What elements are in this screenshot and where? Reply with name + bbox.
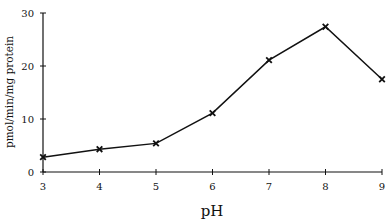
y-tick-label: 20	[21, 61, 34, 72]
x-tick-label: 7	[266, 181, 272, 192]
x-tick-label: 5	[153, 181, 159, 192]
y-axis-title: pmol/min/mg protein	[3, 36, 15, 148]
y-tick-label: 10	[21, 114, 34, 125]
y-tick-label: 30	[21, 8, 34, 19]
x-marker	[266, 57, 272, 63]
x-tick-label: 9	[379, 181, 385, 192]
y-tick-label: 0	[28, 167, 34, 178]
x-marker	[323, 24, 329, 30]
x-tick-label: 3	[40, 181, 46, 192]
x-tick-label: 4	[96, 181, 102, 192]
line-chart: 34567890102030 pH pmol/min/mg protein	[0, 0, 390, 224]
x-tick-label: 6	[209, 181, 215, 192]
x-marker	[379, 76, 385, 82]
x-tick-label: 8	[322, 181, 328, 192]
data-series	[40, 24, 385, 160]
x-marker	[210, 110, 216, 116]
series-line	[43, 27, 382, 157]
x-axis-title: pH	[201, 202, 224, 220]
axes: 34567890102030	[21, 8, 385, 193]
